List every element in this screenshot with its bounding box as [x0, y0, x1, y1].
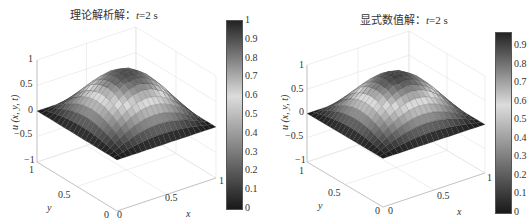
colorbar-tick: 0.1 [514, 188, 527, 198]
colorbar-tick: 0 [514, 207, 519, 217]
title-value: =2 s [429, 14, 448, 26]
colorbar-tick: 0.8 [514, 59, 527, 69]
colorbar-tick: 0.9 [514, 40, 527, 50]
explicit-numerical-solution-plot: 显式数值解：t=2 s 1 0.5 0 −0.5 −1 u (x, y, t) … [265, 0, 531, 222]
colorbar-tick: 0.3 [245, 147, 258, 157]
surface-plot-canvas [265, 0, 531, 222]
colorbar-tick: 0.7 [245, 71, 258, 81]
z-tick: −1 [295, 155, 306, 165]
colorbar-tick: 0.8 [245, 53, 258, 63]
x-axis-label: x [457, 206, 461, 217]
colorbar-tick: 0.6 [514, 96, 527, 106]
z-tick: 0.5 [291, 84, 304, 94]
z-axis-label: u (x, y, t) [279, 95, 290, 130]
y-axis-label: y [318, 200, 322, 211]
x-tick: 1 [487, 173, 492, 183]
colorbar-tick: 1 [245, 15, 250, 25]
z-axis-label: u (x, y, t) [9, 95, 20, 130]
colorbar-tick: 0.6 [245, 90, 258, 100]
colorbar-tick: 0.3 [514, 151, 527, 161]
x-tick: 0 [388, 206, 393, 216]
colorbar-tick: 0.5 [514, 114, 527, 124]
colorbar-tick: 0.2 [514, 170, 527, 180]
y-tick: 1 [29, 165, 34, 175]
colorbar [226, 20, 243, 210]
z-tick: −0.5 [285, 131, 303, 141]
y-tick: 0 [104, 210, 109, 220]
x-axis-label: x [186, 208, 190, 219]
plot-title: 显式数值解：t=2 s [360, 11, 448, 27]
y-tick: 0.5 [58, 190, 71, 200]
x-tick: 1 [219, 176, 224, 186]
title-value: =2 s [139, 9, 158, 21]
colorbar-tick: 0.4 [245, 128, 258, 138]
title-text: 显式数值解： [360, 14, 426, 26]
title-text: 理论解析解： [70, 9, 136, 21]
colorbar-tick: 0.2 [245, 165, 258, 175]
z-tick: −0.5 [14, 129, 32, 139]
colorbar-tick: 0.5 [245, 109, 258, 119]
z-tick: 0.5 [20, 79, 33, 89]
colorbar-tick: 0.7 [514, 77, 527, 87]
z-tick: 1 [28, 54, 33, 64]
colorbar-tick: 0.4 [514, 133, 527, 143]
x-tick: 0.5 [165, 193, 178, 203]
colorbar-tick: 0 [245, 203, 250, 213]
z-tick: 0 [28, 105, 33, 115]
y-axis-label: y [47, 202, 51, 213]
z-tick: 0 [299, 107, 304, 117]
x-tick: 0 [117, 210, 122, 220]
analytical-solution-plot: 理论解析解：t=2 s 1 0.5 0 −0.5 −1 u (x, y, t) … [0, 0, 265, 222]
plot-title: 理论解析解：t=2 s [70, 6, 158, 22]
y-tick: 0.5 [328, 188, 341, 198]
colorbar [495, 32, 512, 214]
y-tick: 0 [375, 206, 380, 216]
colorbar-tick: 0.1 [245, 184, 258, 194]
y-tick: 1 [299, 166, 304, 176]
x-tick: 0.5 [437, 191, 450, 201]
colorbar-tick: 0.9 [245, 34, 258, 44]
z-tick: 1 [299, 60, 304, 70]
